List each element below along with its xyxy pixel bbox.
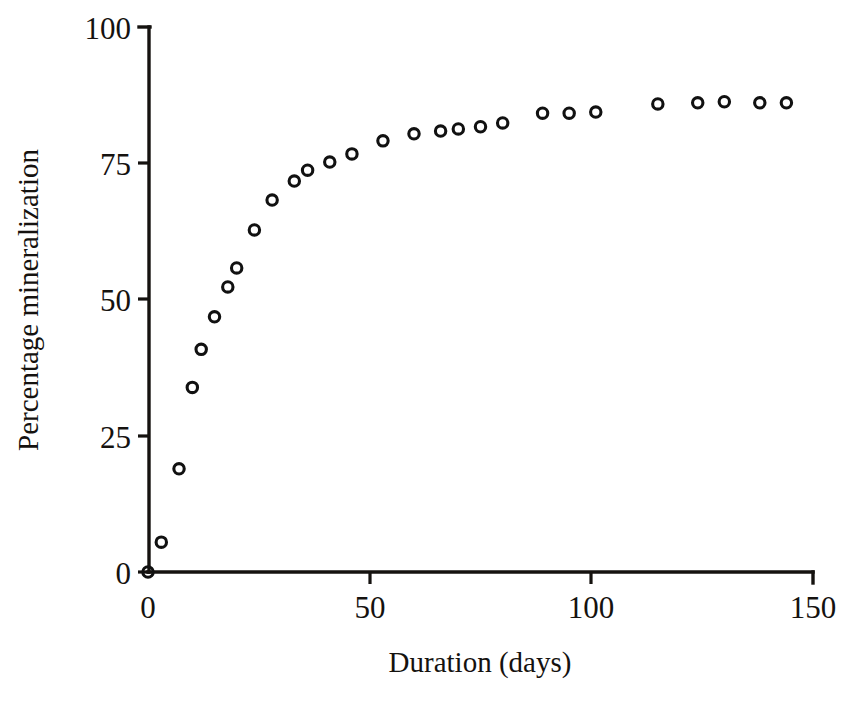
data-point: [267, 195, 277, 205]
data-point: [174, 464, 184, 474]
data-point: [693, 98, 703, 108]
data-point: [249, 225, 259, 235]
axes-group: [139, 27, 813, 583]
x-ticks-group: [370, 572, 591, 584]
y-tick-label-75: 75: [100, 147, 131, 182]
data-point: [591, 107, 601, 117]
data-point: [187, 382, 197, 392]
data-point: [196, 344, 206, 354]
data-point: [223, 282, 233, 292]
data-point: [453, 124, 463, 134]
data-point: [564, 108, 574, 118]
data-point: [653, 99, 663, 109]
data-point: [289, 176, 299, 186]
data-point: [347, 149, 357, 159]
x-tick-label-150: 150: [790, 590, 837, 625]
x-tick-label-50: 50: [355, 590, 386, 625]
x-tick-labels: 0 50 100 150: [140, 590, 836, 625]
data-point: [409, 129, 419, 139]
y-axis-title: Percentage mineralization: [12, 149, 44, 451]
data-point: [475, 122, 485, 132]
x-tick-label-0: 0: [140, 590, 156, 625]
y-tick-labels: 100 75 50 25 0: [85, 11, 132, 591]
data-point: [781, 98, 791, 108]
data-point: [378, 136, 388, 146]
y-tick-label-0: 0: [116, 556, 132, 591]
chart-page: 100 75 50 25 0 0 50 100 150 Duration (da…: [0, 0, 855, 707]
data-point: [497, 118, 507, 128]
data-point-group: [143, 97, 792, 578]
data-point: [537, 108, 547, 118]
data-point: [435, 126, 445, 136]
data-point: [719, 97, 729, 107]
data-point: [209, 312, 219, 322]
x-axis-title: Duration (days): [389, 646, 572, 679]
data-point: [325, 157, 335, 167]
y-tick-label-25: 25: [100, 420, 131, 455]
y-tick-label-50: 50: [100, 283, 131, 318]
data-point: [156, 537, 166, 547]
data-point: [302, 165, 312, 175]
data-point: [231, 263, 241, 273]
scatter-plot: 100 75 50 25 0 0 50 100 150 Duration (da…: [0, 0, 855, 707]
data-point: [755, 98, 765, 108]
y-tick-label-100: 100: [85, 11, 132, 46]
x-tick-label-100: 100: [568, 590, 615, 625]
